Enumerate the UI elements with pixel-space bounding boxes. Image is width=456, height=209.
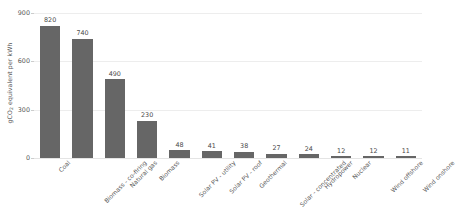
bar[interactable] [169, 150, 189, 158]
bar-group[interactable]: 12 [331, 13, 351, 158]
y-axis-title: gCO2 equivalent per kWh [3, 3, 17, 163]
bar-group[interactable]: 24 [299, 13, 319, 158]
category-label: Solar - concentrated [298, 159, 347, 208]
y-tick-label: 900 [18, 9, 30, 17]
bar-group[interactable]: 41 [202, 13, 222, 158]
category-label: Wind onshore [421, 159, 455, 193]
bar[interactable] [396, 156, 416, 158]
y-axis-title-subscript: 2 [9, 107, 14, 110]
bar-value-label: 41 [202, 142, 222, 150]
category-label: Wind offshore [389, 159, 424, 194]
bar-value-label: 820 [40, 16, 60, 24]
y-axis-title-prefix: gCO [6, 110, 13, 123]
bar[interactable] [299, 154, 319, 158]
category-label: Coal [57, 159, 71, 173]
bar[interactable] [72, 39, 92, 158]
bar-group[interactable]: 740 [72, 13, 92, 158]
y-axis-title-suffix: equivalent per kWh [6, 43, 13, 107]
y-tick-label: 0 [26, 154, 30, 162]
bar-group[interactable]: 490 [105, 13, 125, 158]
bar[interactable] [137, 121, 157, 158]
category-label: Nuclear [351, 159, 373, 181]
bar-value-label: 11 [396, 147, 416, 155]
bar[interactable] [266, 154, 286, 158]
bar-value-label: 740 [72, 29, 92, 37]
bar-group[interactable]: 230 [137, 13, 157, 158]
bar-value-label: 230 [137, 111, 157, 119]
bar[interactable] [234, 152, 254, 158]
bar-value-label: 24 [299, 145, 319, 153]
bar-value-label: 48 [169, 141, 189, 149]
y-tick-label: 600 [18, 57, 30, 65]
bar-group[interactable]: 12 [363, 13, 383, 158]
category-label: Biomass [158, 159, 181, 182]
bar[interactable] [363, 156, 383, 158]
bar-group[interactable]: 820 [40, 13, 60, 158]
bar-group[interactable]: 38 [234, 13, 254, 158]
y-tick-label: 300 [18, 106, 30, 114]
bar-group[interactable]: 48 [169, 13, 189, 158]
bars-layer: 8207404902304841382724121211 [34, 13, 422, 158]
bar[interactable] [105, 79, 125, 158]
bar-value-label: 12 [331, 147, 351, 155]
bar-group[interactable]: 11 [396, 13, 416, 158]
bar-value-label: 490 [105, 70, 125, 78]
bar[interactable] [202, 151, 222, 158]
bar-value-label: 38 [234, 142, 254, 150]
plot-area: 0300600900 8207404902304841382724121211 [34, 13, 422, 158]
bar[interactable] [40, 26, 60, 158]
bar[interactable] [331, 156, 351, 158]
category-axis: CoalBiomass - co-firingNatural gasBiomas… [34, 159, 422, 209]
bar-value-label: 27 [266, 144, 286, 152]
bar-group[interactable]: 27 [266, 13, 286, 158]
bar-value-label: 12 [363, 147, 383, 155]
